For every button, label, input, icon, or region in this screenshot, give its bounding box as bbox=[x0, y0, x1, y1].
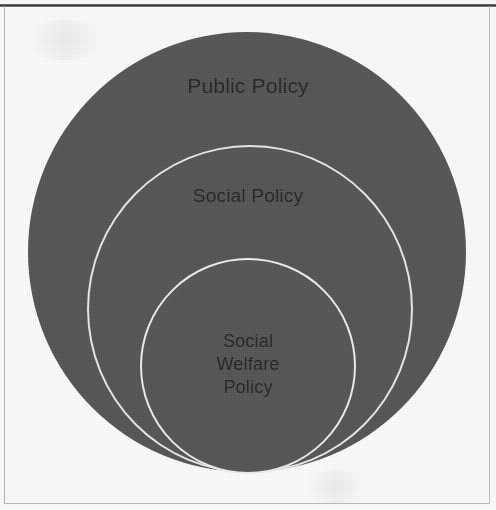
diagram-canvas: Public Policy Social Policy Social Welfa… bbox=[0, 0, 496, 510]
label-social-welfare-policy: Social Welfare Policy bbox=[140, 330, 356, 399]
nested-circles-diagram: Public Policy Social Policy Social Welfa… bbox=[0, 0, 496, 510]
label-public-policy: Public Policy bbox=[0, 73, 496, 100]
label-social-policy: Social Policy bbox=[0, 184, 496, 208]
